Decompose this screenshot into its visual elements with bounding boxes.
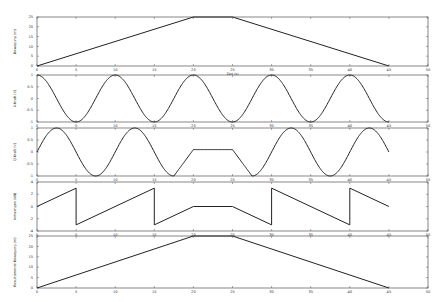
y-tick-label: -4	[29, 229, 33, 233]
x-tick-label: 0	[36, 124, 39, 128]
data-line	[37, 75, 389, 122]
x-tick-label: 10	[113, 290, 118, 294]
x-tick-label: 10	[113, 68, 118, 72]
y-tick-label: -1	[29, 174, 33, 178]
y-tick-label: 0	[31, 64, 34, 68]
x-tick-label: 40	[348, 124, 353, 128]
panel-1: 051015202530354045500510152025Bewegung (…	[13, 15, 431, 76]
x-tick-label: 0	[36, 68, 39, 72]
y-tick-label: 2	[31, 192, 33, 196]
y-tick-label: 5	[31, 54, 33, 58]
plot-frame	[37, 236, 428, 288]
panel-3: 05101520253035404550-1-0.500.51Q-Kraft (…	[13, 126, 431, 181]
y-tick-label: -1	[29, 120, 33, 124]
x-tick-label: 30	[269, 124, 274, 128]
x-tick-label: 40	[348, 68, 353, 72]
data-line	[37, 236, 389, 288]
plot-frame	[37, 17, 428, 66]
y-tick-label: 15	[28, 255, 33, 259]
y-tick-label: -0.5	[26, 108, 33, 112]
x-tick-label: 15	[152, 178, 157, 182]
y-axis-label: Q-Kraft (V)	[13, 142, 17, 161]
y-tick-label: -0.5	[26, 162, 33, 166]
x-tick-label: 5	[75, 290, 77, 294]
data-line	[37, 128, 389, 176]
y-tick-label: 20	[28, 245, 33, 249]
y-tick-label: 0	[31, 97, 34, 101]
y-tick-label: 0.5	[27, 85, 33, 89]
y-tick-label: 4	[31, 180, 34, 184]
x-tick-label: 15	[152, 290, 157, 294]
x-tick-label: 0	[36, 178, 39, 182]
panel-2: 05101520253035404550-1-0.500.51X-Kraft (…	[13, 73, 431, 127]
x-tick-label: 0	[36, 290, 39, 294]
y-tick-label: 0	[31, 205, 34, 209]
x-tick-label: 45	[387, 68, 392, 72]
x-tick-label: 10	[113, 124, 118, 128]
x-tick-label: 20	[191, 68, 196, 72]
y-tick-label: 25	[28, 234, 33, 238]
y-axis-label: X-Kraft (V)	[13, 89, 17, 107]
y-tick-label: 25	[28, 15, 33, 19]
x-tick-label: 35	[308, 178, 313, 182]
x-tick-label: 45	[387, 290, 392, 294]
x-tick-label: 5	[75, 124, 77, 128]
x-tick-label: 5	[75, 68, 77, 72]
x-axis-label: Zeit (s)	[226, 72, 239, 76]
y-axis-label: Resultierende Bewegung (m)	[13, 237, 17, 287]
x-tick-label: 50	[426, 68, 431, 72]
x-tick-label: 25	[230, 124, 235, 128]
x-tick-label: 30	[269, 290, 274, 294]
y-tick-label: 1	[31, 126, 33, 130]
x-tick-label: 50	[426, 124, 431, 128]
x-tick-label: 20	[191, 290, 196, 294]
y-tick-label: 15	[28, 35, 33, 39]
y-tick-label: -2	[29, 217, 33, 221]
x-tick-label: 25	[230, 178, 235, 182]
x-tick-label: 10	[113, 178, 118, 182]
panel-4: 05101520253035404550-4-2024Anhaengen (kN…	[13, 180, 431, 236]
y-tick-label: 1	[31, 73, 33, 77]
x-tick-label: 25	[230, 68, 235, 72]
x-tick-label: 35	[308, 68, 313, 72]
x-tick-label: 40	[348, 178, 353, 182]
y-tick-label: 0	[31, 150, 34, 154]
x-tick-label: 45	[387, 178, 392, 182]
x-tick-label: 45	[387, 124, 392, 128]
y-tick-label: 10	[28, 45, 33, 49]
x-tick-label: 15	[152, 124, 157, 128]
x-tick-label: 30	[269, 178, 274, 182]
y-axis-label: Anhaengen (kN)	[13, 192, 17, 220]
stacked-line-chart: 051015202530354045500510152025Bewegung (…	[0, 0, 440, 302]
x-tick-label: 50	[426, 290, 431, 294]
x-tick-label: 35	[308, 290, 313, 294]
y-tick-label: 5	[31, 276, 33, 280]
plot-frame	[37, 128, 428, 176]
x-tick-label: 20	[191, 124, 196, 128]
x-tick-label: 50	[426, 178, 431, 182]
data-line	[37, 17, 389, 66]
y-axis-label: Bewegung (m)	[13, 28, 17, 54]
y-tick-label: 10	[28, 265, 33, 269]
x-tick-label: 15	[152, 68, 157, 72]
x-tick-label: 35	[308, 124, 313, 128]
y-tick-label: 20	[28, 25, 33, 29]
data-line	[37, 188, 389, 225]
x-tick-label: 5	[75, 178, 77, 182]
x-tick-label: 40	[348, 290, 353, 294]
panel-5: 051015202530354045500510152025Resultiere…	[13, 234, 431, 293]
y-tick-label: 0.5	[27, 138, 33, 142]
y-tick-label: 0	[31, 286, 34, 290]
x-tick-label: 30	[269, 68, 274, 72]
x-tick-label: 25	[230, 290, 235, 294]
x-tick-label: 20	[191, 178, 196, 182]
